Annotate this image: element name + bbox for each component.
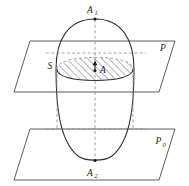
- bottom-vertex-point: [93, 159, 96, 162]
- label-lower-plane-subscript: 0: [163, 141, 167, 148]
- cross-section-center-point: [94, 69, 97, 72]
- label-bottom-vertex: A: [86, 168, 93, 178]
- label-top-vertex: A: [86, 5, 93, 15]
- top-vertex-point: [93, 17, 96, 20]
- label-bottom-vertex-subscript: 2: [95, 172, 99, 179]
- label-lower-plane: P: [155, 136, 162, 146]
- label-upper-plane: P: [159, 43, 166, 53]
- label-top-vertex-subscript: 1: [95, 9, 98, 16]
- figure-canvas: A 1 A 2 S A P P 0: [0, 0, 189, 186]
- label-cross-section-center: A: [99, 65, 106, 75]
- geometry-figure: A 1 A 2 S A P P 0: [0, 0, 189, 186]
- label-cross-section-region: S: [48, 61, 53, 71]
